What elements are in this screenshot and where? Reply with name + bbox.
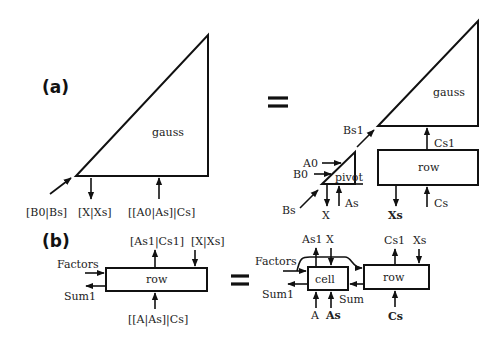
equals-sign-b <box>231 276 249 284</box>
a-as-cs-label: [[A|As]|Cs] <box>128 313 188 327</box>
row-block-lhs-b: row <box>106 268 207 291</box>
cs-rhs-label: Cs <box>388 310 403 323</box>
as-label: As <box>344 197 359 210</box>
xs-rhs-label: Xs <box>413 234 427 247</box>
sum1-rhs-label: Sum1 <box>262 288 294 301</box>
part-b-tag: (b) <box>42 231 70 251</box>
factors-to-row-wire <box>297 257 362 271</box>
b0-bs-input-arrow <box>50 178 71 194</box>
gauss-block-lhs: gauss <box>76 35 208 176</box>
cell-block: cell <box>308 267 348 290</box>
pivot-block: pivot <box>322 152 363 184</box>
xs-label: Xs <box>388 209 403 222</box>
gauss-rhs-label: gauss <box>433 86 465 99</box>
gauss-block-rhs: gauss <box>378 21 478 126</box>
as1-cs1-label: [As1|Cs1] <box>130 235 184 249</box>
bs-arrow <box>300 190 318 208</box>
bs-label: Bs <box>282 204 296 217</box>
cs1-rhs-label: Cs1 <box>384 234 405 247</box>
diagram-canvas: (a) gauss [B0|Bs] [X|Xs] [[A0|As]|Cs] ga… <box>0 0 503 350</box>
row-block-rhs-b: row <box>364 265 429 289</box>
bs1-label: Bs1 <box>343 124 364 137</box>
sum-label: Sum <box>339 293 365 306</box>
x-label: X <box>322 209 330 222</box>
a0-as-cs-label: [[A0|As]|Cs] <box>128 206 195 220</box>
a-label: A <box>310 309 320 322</box>
row-block-rhs-a: row <box>378 150 478 185</box>
cell-label: cell <box>315 273 335 286</box>
gauss-label: gauss <box>152 126 184 139</box>
x-xs-label: [X|Xs] <box>78 206 112 220</box>
part-a-tag: (a) <box>42 77 69 97</box>
row-rhs-a-label: row <box>418 161 440 174</box>
b0-label: B0 <box>293 168 308 181</box>
sum1-label: Sum1 <box>64 290 96 303</box>
pivot-label: pivot <box>335 171 363 184</box>
as-rhs-label: As <box>325 309 341 322</box>
row-lhs-b-label: row <box>146 273 168 286</box>
b0-bs-label: [B0|Bs] <box>26 206 67 220</box>
factors-rhs-label: Factors <box>255 255 297 268</box>
as1-label: As1 <box>301 233 323 246</box>
equals-sign-a <box>268 98 288 106</box>
row-rhs-b-label: row <box>383 271 405 284</box>
x-rhs-label: X <box>326 233 334 246</box>
cs-label: Cs <box>434 197 448 210</box>
factors-label: Factors <box>57 258 99 271</box>
x-xs-top-label: [X|Xs] <box>191 235 225 249</box>
cs1-label: Cs1 <box>434 137 455 150</box>
